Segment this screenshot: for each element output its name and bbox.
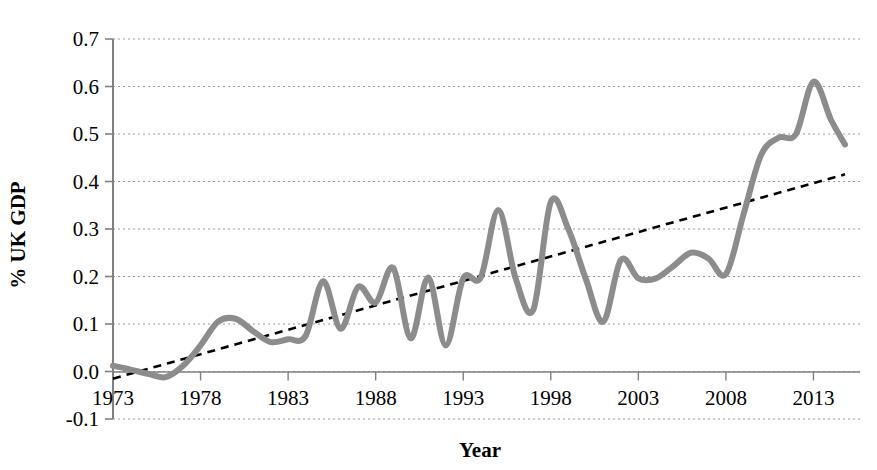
x-axis-title: Year	[459, 440, 501, 461]
x-tick-label: 1983	[267, 388, 309, 409]
gridlines-group	[113, 39, 860, 419]
y-tick-label: 0.5	[73, 124, 99, 145]
y-axis-title: % UK GDP	[8, 181, 29, 288]
y-tick-label: 0.7	[73, 29, 99, 50]
y-tick-label: -0.1	[66, 409, 99, 430]
data-series-uk-gdp	[113, 82, 845, 378]
x-tick-label: 1998	[530, 388, 572, 409]
x-tick-label: 1978	[180, 388, 222, 409]
axis-lines-group	[113, 39, 860, 419]
x-tick-label: 1993	[442, 388, 484, 409]
y-tick-label: 0.4	[73, 171, 99, 192]
x-tick-label: 2003	[617, 388, 659, 409]
y-axis-ticks	[105, 39, 113, 419]
x-tick-label: 1973	[92, 388, 134, 409]
x-tick-label: 2008	[705, 388, 747, 409]
y-tick-label: 0.3	[73, 219, 99, 240]
y-tick-label: 0.0	[73, 361, 99, 382]
y-tick-label: 0.1	[73, 314, 99, 335]
x-tick-label: 2013	[792, 388, 834, 409]
x-tick-label: 1988	[355, 388, 397, 409]
x-axis-ticks	[113, 372, 813, 381]
y-tick-label: 0.2	[73, 266, 99, 287]
y-tick-label: 0.6	[73, 76, 99, 97]
chart-figure: -0.10.00.10.20.30.40.50.60.7 19731978198…	[0, 0, 877, 470]
